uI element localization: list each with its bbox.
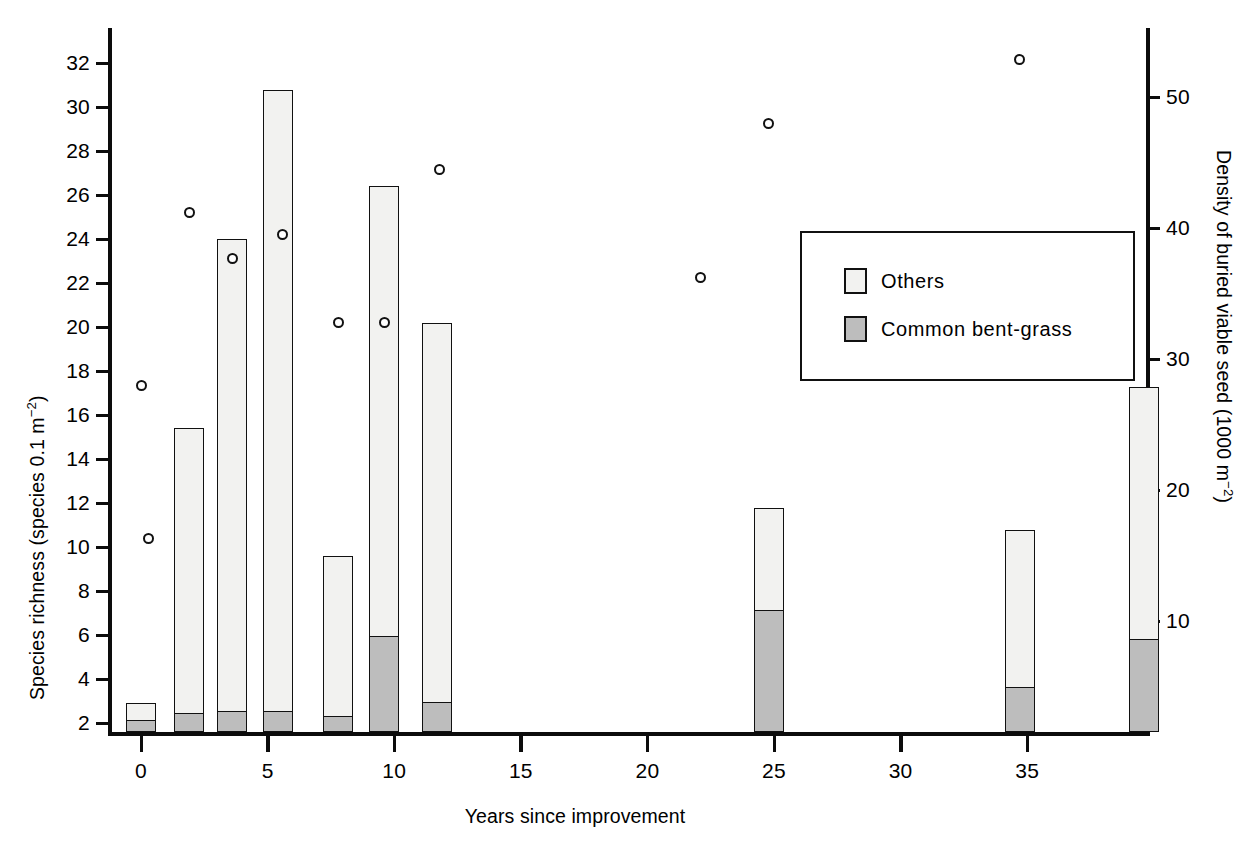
y-axis-tick xyxy=(96,634,110,638)
y-axis-tick-label: 4 xyxy=(20,668,90,689)
scatter-marker-open-circle[interactable] xyxy=(434,164,445,175)
y-axis-tick-label: 2 xyxy=(20,712,90,733)
y-axis-tick xyxy=(96,194,110,198)
x-axis-tick xyxy=(1026,736,1030,752)
scatter-marker-open-circle[interactable] xyxy=(143,533,154,544)
legend-swatch-bent-grass-icon xyxy=(844,316,867,342)
x-axis-tick-label: 35 xyxy=(987,760,1067,781)
y-axis-tick xyxy=(96,238,110,242)
y-axis-line xyxy=(108,28,112,736)
bar-segment-common-bent-grass xyxy=(218,711,246,731)
x-axis-tick xyxy=(646,736,650,752)
y2-axis-tick xyxy=(1146,358,1160,362)
y-axis-tick xyxy=(96,590,110,594)
y-axis-tick xyxy=(96,458,110,462)
y2-axis-tick-label: 20 xyxy=(1166,479,1226,500)
y2-axis-tick xyxy=(1146,227,1160,231)
y2-axis-title: Density of buried viable seed (1000 m−2) xyxy=(1212,150,1237,503)
bar-segment-others xyxy=(1006,531,1034,689)
bar-segment-common-bent-grass xyxy=(755,610,783,731)
bar-segment-common-bent-grass xyxy=(423,702,451,731)
x-axis-tick-label: 15 xyxy=(481,760,561,781)
y-axis-tick-label: 8 xyxy=(20,580,90,601)
chart-canvas: Species richness (species 0.1 m−2) Densi… xyxy=(0,0,1256,850)
y-axis-tick xyxy=(96,150,110,154)
y-axis-tick-label: 14 xyxy=(20,448,90,469)
scatter-marker-open-circle[interactable] xyxy=(136,380,147,391)
bar-segment-common-bent-grass xyxy=(175,713,203,731)
bar-segment-common-bent-grass xyxy=(127,720,155,731)
scatter-marker-open-circle[interactable] xyxy=(763,118,774,129)
bar-segment-others xyxy=(755,509,783,612)
x-axis-line xyxy=(108,732,1150,736)
x-axis-title: Years since improvement xyxy=(0,805,1150,828)
x-axis-tick-label: 30 xyxy=(861,760,941,781)
bar-segment-common-bent-grass xyxy=(370,636,398,731)
bar-segment-others xyxy=(370,187,398,638)
bar-segment-others xyxy=(264,91,292,714)
bar-5-4-years[interactable] xyxy=(263,90,293,732)
legend: Others Common bent-grass xyxy=(800,231,1135,381)
y-axis-tick xyxy=(96,678,110,682)
bar-7-8-years[interactable] xyxy=(323,556,353,732)
bar-segment-common-bent-grass xyxy=(1130,639,1158,731)
y2-axis-tick-label: 50 xyxy=(1166,86,1226,107)
x-axis-tick-label: 10 xyxy=(354,760,434,781)
bar-1-9-years[interactable] xyxy=(174,428,204,732)
bar-segment-common-bent-grass xyxy=(1006,687,1034,731)
y-axis-tick xyxy=(96,502,110,506)
bar-0-years[interactable] xyxy=(126,703,156,732)
legend-item-common-bent-grass[interactable]: Common bent-grass xyxy=(844,316,1072,342)
y-axis-tick xyxy=(96,546,110,550)
x-axis-tick xyxy=(266,736,270,752)
y-axis-tick-label: 10 xyxy=(20,536,90,557)
scatter-marker-open-circle[interactable] xyxy=(695,272,706,283)
scatter-marker-open-circle[interactable] xyxy=(1014,54,1025,65)
bar-segment-others xyxy=(324,557,352,718)
scatter-marker-open-circle[interactable] xyxy=(184,207,195,218)
bar-segment-others xyxy=(1130,388,1158,641)
y-axis-tick-label: 26 xyxy=(20,184,90,205)
bar-34-7-years[interactable] xyxy=(1005,530,1035,732)
y-axis-tick xyxy=(96,326,110,330)
y-axis-tick-label: 18 xyxy=(20,360,90,381)
y-axis-tick-label: 6 xyxy=(20,624,90,645)
x-axis-tick-label: 20 xyxy=(607,760,687,781)
y-axis-tick-label: 30 xyxy=(20,96,90,117)
y-axis-tick-label: 28 xyxy=(20,140,90,161)
bar-segment-others xyxy=(218,240,246,713)
x-axis-tick xyxy=(773,736,777,752)
x-axis-tick xyxy=(140,736,144,752)
bar-segment-others xyxy=(175,429,203,715)
y2-axis-tick-label: 40 xyxy=(1166,217,1226,238)
bar-segment-others xyxy=(423,324,451,705)
bar-9-6-years[interactable] xyxy=(369,186,399,732)
bar-24-8-years[interactable] xyxy=(754,508,784,732)
bar-3-6-years[interactable] xyxy=(217,239,247,732)
y2-axis-tick xyxy=(1146,96,1160,100)
y-axis-tick-label: 24 xyxy=(20,228,90,249)
y-axis-tick-label: 16 xyxy=(20,404,90,425)
y-axis-tick xyxy=(96,106,110,110)
scatter-marker-open-circle[interactable] xyxy=(379,317,390,328)
y2-axis-tick-label: 30 xyxy=(1166,348,1226,369)
legend-label-common-bent-grass: Common bent-grass xyxy=(881,318,1072,341)
scatter-marker-open-circle[interactable] xyxy=(333,317,344,328)
y2-axis-tick-label: 10 xyxy=(1166,610,1226,631)
legend-item-others[interactable]: Others xyxy=(844,268,945,294)
scatter-marker-open-circle[interactable] xyxy=(227,253,238,264)
bar-segment-common-bent-grass xyxy=(264,711,292,731)
bar-39-6-years[interactable] xyxy=(1129,387,1159,732)
y-axis-tick xyxy=(96,414,110,418)
y-axis-tick-label: 22 xyxy=(20,272,90,293)
y-axis-tick-label: 20 xyxy=(20,316,90,337)
x-axis-tick-label: 25 xyxy=(734,760,814,781)
y-axis-tick xyxy=(96,370,110,374)
bar-11-7-years[interactable] xyxy=(422,323,452,732)
x-axis-tick xyxy=(519,736,523,752)
legend-swatch-others-icon xyxy=(844,268,867,294)
y-axis-tick xyxy=(96,62,110,66)
x-axis-tick-label: 0 xyxy=(101,760,181,781)
x-axis-tick-label: 5 xyxy=(228,760,308,781)
y-axis-tick xyxy=(96,722,110,726)
